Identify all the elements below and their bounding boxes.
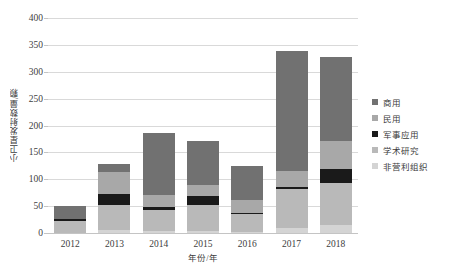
y-axis-tick-label: 150 [29, 147, 43, 157]
stacked-bar[interactable] [276, 51, 308, 233]
bar-segment[interactable] [231, 214, 263, 232]
legend-item[interactable]: 军事应用 [372, 126, 447, 142]
stacked-bar[interactable] [54, 206, 86, 233]
bar-segment[interactable] [231, 232, 263, 233]
bar-segment[interactable] [320, 183, 352, 225]
bars-layer: 2012201320142015201620172018 [48, 18, 358, 233]
bar-segment[interactable] [231, 166, 263, 200]
bar-segment[interactable] [187, 141, 219, 185]
legend-swatch-icon [372, 163, 378, 169]
bar-group: 2018 [314, 18, 358, 233]
y-axis-tick-mark [44, 233, 48, 234]
legend-swatch-icon [372, 147, 378, 153]
y-axis-tick-label: 400 [29, 13, 43, 23]
chart-container: 小卫星发射数量/颗 050100150200250300350400 20122… [0, 0, 449, 273]
legend-item-label: 民用 [383, 112, 401, 124]
bar-segment[interactable] [54, 219, 86, 222]
bar-group: 2013 [92, 18, 136, 233]
stacked-bar[interactable] [98, 164, 130, 233]
legend-item-label: 军事应用 [383, 128, 419, 140]
bar-segment[interactable] [320, 141, 352, 169]
bar-segment[interactable] [54, 206, 86, 219]
bar-segment[interactable] [320, 225, 352, 233]
bar-group: 2014 [137, 18, 181, 233]
bar-segment[interactable] [143, 133, 175, 195]
x-axis-tick-label: 2015 [181, 239, 225, 249]
bar-segment[interactable] [143, 231, 175, 233]
bar-segment[interactable] [276, 51, 308, 171]
legend-item-label: 商用 [383, 96, 401, 108]
bar-segment[interactable] [98, 205, 130, 230]
legend-item[interactable]: 民用 [372, 110, 447, 126]
legend-swatch-icon [372, 115, 378, 121]
plot-area: 050100150200250300350400 201220132014201… [48, 18, 358, 233]
y-axis-tick-label: 0 [38, 228, 43, 238]
stacked-bar[interactable] [320, 57, 352, 233]
bar-segment[interactable] [187, 196, 219, 205]
legend-item[interactable]: 非营利组织 [372, 158, 447, 174]
gridline [48, 233, 358, 234]
bar-segment[interactable] [276, 187, 308, 189]
bar-segment[interactable] [276, 189, 308, 228]
chart-legend: 商用民用军事应用学术研究非营利组织 [372, 94, 447, 174]
bar-segment[interactable] [276, 171, 308, 187]
y-axis-tick-label: 200 [29, 121, 43, 131]
stacked-bar[interactable] [143, 133, 175, 233]
bar-group: 2016 [225, 18, 269, 233]
x-axis-tick-label: 2013 [92, 239, 136, 249]
legend-swatch-icon [372, 99, 378, 105]
bar-segment[interactable] [98, 194, 130, 205]
legend-item-label: 非营利组织 [383, 160, 428, 172]
legend-item-label: 学术研究 [383, 144, 419, 156]
legend-item[interactable]: 学术研究 [372, 142, 447, 158]
bar-segment[interactable] [143, 207, 175, 210]
legend-item[interactable]: 商用 [372, 94, 447, 110]
bar-segment[interactable] [143, 210, 175, 231]
x-axis-tick-label: 2018 [314, 239, 358, 249]
x-axis-tick-label: 2014 [137, 239, 181, 249]
x-axis-title: 年份/年 [48, 251, 358, 263]
bar-segment[interactable] [187, 185, 219, 196]
bar-segment[interactable] [276, 228, 308, 233]
bar-segment[interactable] [98, 164, 130, 172]
bar-segment[interactable] [320, 57, 352, 140]
bar-group: 2015 [181, 18, 225, 233]
y-axis-tick-label: 300 [29, 67, 43, 77]
y-axis-title: 小卫星发射数量/颗 [10, 60, 24, 190]
y-axis-tick-label: 350 [29, 40, 43, 50]
bar-segment[interactable] [320, 169, 352, 184]
y-axis-tick-label: 100 [29, 174, 43, 184]
bar-segment[interactable] [54, 221, 86, 233]
bar-segment[interactable] [231, 213, 263, 214]
legend-swatch-icon [372, 131, 378, 137]
bar-segment[interactable] [98, 172, 130, 195]
bar-group: 2017 [269, 18, 313, 233]
bar-segment[interactable] [187, 205, 219, 232]
bar-segment[interactable] [143, 195, 175, 207]
bar-segment[interactable] [187, 231, 219, 233]
bar-segment[interactable] [98, 230, 130, 233]
bar-segment[interactable] [231, 200, 263, 213]
stacked-bar[interactable] [187, 141, 219, 233]
y-axis-tick-label: 50 [34, 201, 44, 211]
x-axis-tick-label: 2016 [225, 239, 269, 249]
x-axis-tick-label: 2017 [269, 239, 313, 249]
bar-group: 2012 [48, 18, 92, 233]
stacked-bar[interactable] [231, 166, 263, 233]
x-axis-tick-label: 2012 [48, 239, 92, 249]
y-axis-tick-label: 250 [29, 94, 43, 104]
